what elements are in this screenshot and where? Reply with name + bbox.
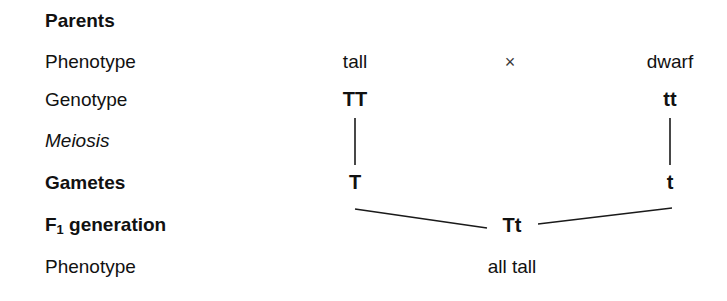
parent-right-genotype: tt xyxy=(663,88,676,110)
row-label-gametes: Gametes xyxy=(45,172,125,194)
row-label-parents: Parents xyxy=(45,10,115,32)
parent-left-phenotype: tall xyxy=(343,51,367,73)
f1-prefix: F xyxy=(45,214,57,235)
cross-symbol-icon: × xyxy=(505,51,516,73)
f1-phenotype: all tall xyxy=(488,256,537,278)
fertilization-line-left xyxy=(355,209,487,228)
f1-genotype: Tt xyxy=(503,214,522,236)
monohybrid-cross-diagram: Parents Phenotype Genotype Meiosis Gamet… xyxy=(0,0,727,301)
parent-right-phenotype: dwarf xyxy=(647,51,693,73)
f1-subscript: 1 xyxy=(57,222,64,237)
fertilization-line-right xyxy=(538,208,672,224)
parent-left-genotype: TT xyxy=(343,88,367,110)
row-label-meiosis: Meiosis xyxy=(45,130,109,152)
gamete-left: T xyxy=(349,171,361,193)
row-label-phenotype-parents: Phenotype xyxy=(45,51,136,73)
row-label-f1-generation: F1 generation xyxy=(45,214,166,238)
f1-suffix: generation xyxy=(64,214,166,235)
gamete-right: t xyxy=(667,171,674,193)
row-label-genotype: Genotype xyxy=(45,89,127,111)
row-label-phenotype-f1: Phenotype xyxy=(45,256,136,278)
